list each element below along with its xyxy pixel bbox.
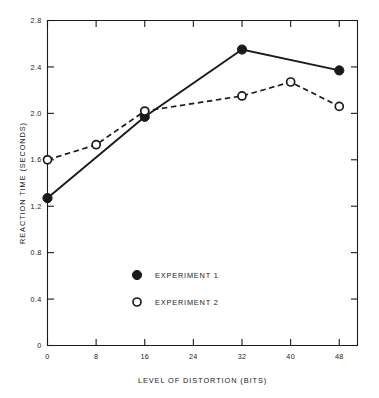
y-tick-label: 0 [37,341,41,350]
open-circle-marker [287,78,295,86]
y-tick-label: 1.2 [31,202,42,211]
legend-marker-1 [132,270,141,279]
x-tick-label: 8 [94,352,98,361]
y-axis-title: REACTION TIME (SECONDS) [18,122,27,244]
x-tick-label: 48 [335,352,344,361]
filled-circle-marker [335,66,344,75]
y-tick-label: 0.8 [31,248,42,257]
y-tick-label: 2.4 [31,63,42,72]
legend-marker-2 [133,298,141,306]
reaction-time-line-chart: 081624324048 00.40.81.21.62.02.42.8 LEVE… [0,0,379,398]
x-tick-label: 24 [189,352,198,361]
figure-container: 081624324048 00.40.81.21.62.02.42.8 LEVE… [0,0,379,398]
x-axis-title: LEVEL OF DISTORTION (BITS) [138,376,267,385]
filled-circle-marker [43,193,52,202]
x-tick-label: 0 [45,352,49,361]
y-tick-label: 2.8 [31,16,42,25]
open-circle-marker [335,102,343,110]
x-tick-label: 40 [286,352,295,361]
x-tick-label: 16 [140,352,149,361]
open-circle-marker [238,92,246,100]
open-circle-marker [141,107,149,115]
chart-background [0,0,379,398]
legend-label-1: EXPERIMENT 1 [155,271,219,280]
y-tick-label: 1.6 [31,155,42,164]
open-circle-marker [44,156,52,164]
legend-label-2: EXPERIMENT 2 [155,298,219,307]
open-circle-marker [92,141,100,149]
filled-circle-marker [237,45,246,54]
y-tick-label: 2.0 [31,109,42,118]
x-tick-label: 32 [238,352,247,361]
y-tick-label: 0.4 [31,295,42,304]
